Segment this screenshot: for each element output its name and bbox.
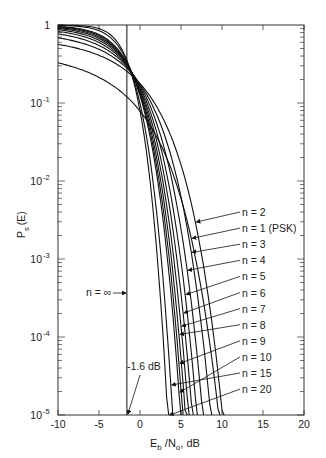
shannon-limit-arrow xyxy=(128,375,140,414)
shannon-limit-label: -1.6 dB xyxy=(127,360,161,372)
error-probability-chart: -10-505101520110-110-210-310-410-5Eb /No… xyxy=(0,0,326,458)
x-tick-label: 10 xyxy=(216,418,228,430)
legend-leader xyxy=(196,212,240,222)
legend-leader xyxy=(182,309,240,327)
y-tick-exponent: -5 xyxy=(43,407,50,416)
legend-label: n = 6 xyxy=(242,287,266,299)
curve-n-15 xyxy=(58,25,173,415)
curve-n-7 xyxy=(58,28,189,415)
y-tick-exponent: -3 xyxy=(43,251,50,260)
x-tick-label: 15 xyxy=(257,418,269,430)
y-tick-label: 10 xyxy=(30,409,42,421)
legend-label: n = 4 xyxy=(242,254,266,266)
y-tick-label: 1 xyxy=(44,19,50,31)
legend-label: n = 5 xyxy=(242,270,266,282)
curve-n-4 xyxy=(58,34,204,415)
y-axis-label: Ps(E) xyxy=(15,211,31,238)
legend-label: n = 7 xyxy=(242,303,266,315)
y-tick-exponent: -1 xyxy=(43,95,50,104)
y-tick-exponent: -4 xyxy=(43,329,50,338)
curve-n-6 xyxy=(58,30,193,415)
x-tick-label: -5 xyxy=(94,418,103,430)
x-axis-label: Eb /No, dB xyxy=(150,437,200,452)
curve-n-8 xyxy=(58,28,187,416)
y-tick-label: 10 xyxy=(30,331,42,343)
n-infinity-label: n = ∞ xyxy=(86,286,111,298)
y-tick-label: 10 xyxy=(30,175,42,187)
y-tick-label: 10 xyxy=(30,253,42,265)
y-tick-label: 10 xyxy=(30,97,42,109)
legend-label: n = 3 xyxy=(242,238,266,250)
curve-n-20 xyxy=(58,25,169,415)
legend-label: n = 15 xyxy=(242,367,272,379)
legend-label: n = 1 (PSK) xyxy=(242,222,297,234)
legend-label: n = 20 xyxy=(242,383,272,395)
y-tick-exponent: -2 xyxy=(43,173,50,182)
legend-leader xyxy=(186,276,240,294)
legend-leader xyxy=(184,293,240,314)
legend-leader xyxy=(192,228,240,238)
legend-label: n = 10 xyxy=(242,351,272,363)
legend-label: n = 2 xyxy=(242,206,266,218)
x-tick-label: 0 xyxy=(137,418,143,430)
legend-label: n = 9 xyxy=(242,335,266,347)
legend-label: n = 8 xyxy=(242,319,266,331)
x-tick-label: 5 xyxy=(178,418,184,430)
x-tick-label: 20 xyxy=(298,418,310,430)
x-tick-label: -10 xyxy=(50,418,65,430)
curve-n-10 xyxy=(58,26,181,415)
